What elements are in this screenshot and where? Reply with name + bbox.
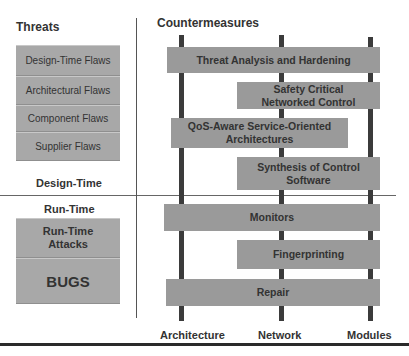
threat-run-time-attacks: Run-Time Attacks: [16, 218, 120, 258]
countermeasure-monitors: Monitors: [164, 204, 380, 231]
threat-bugs: BUGS: [16, 258, 120, 304]
countermeasure-threat-analysis-hardening: Threat Analysis and Hardening: [167, 47, 380, 73]
axis-label-modules: Modules: [347, 329, 392, 341]
countermeasure-repair: Repair: [166, 279, 380, 306]
countermeasure-fingerprinting: Fingerprinting: [237, 240, 380, 269]
countermeasure-qos-aware-soa: QoS-Aware Service-Oriented Architectures: [171, 118, 348, 148]
countermeasure-safety-critical-networked-control: Safety Critical Networked Control: [237, 82, 380, 109]
threat-supplier-flaws: Supplier Flaws: [16, 132, 120, 161]
bottom-rule: [0, 343, 409, 346]
threat-architectural-flaws: Architectural Flaws: [16, 76, 120, 105]
threats-title: Threats: [16, 20, 59, 34]
axis-label-architecture: Architecture: [160, 329, 225, 341]
panel-divider: [136, 18, 137, 318]
run-time-label: Run-Time: [44, 203, 95, 215]
design-time-label: Design-Time: [36, 177, 102, 189]
axis-label-network: Network: [258, 329, 301, 341]
threat-component-flaws: Component Flaws: [16, 105, 120, 132]
threat-design-time-flaws: Design-Time Flaws: [16, 45, 120, 76]
countermeasures-title: Countermeasures: [157, 16, 259, 30]
phase-divider: [0, 195, 396, 196]
countermeasure-synthesis-control-software: Synthesis of Control Software: [237, 157, 380, 190]
